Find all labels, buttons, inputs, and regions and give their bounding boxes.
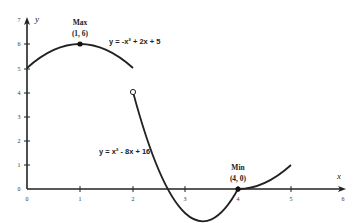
svg-text:2: 2 xyxy=(18,138,21,144)
x-axis-label: x xyxy=(336,171,341,181)
svg-text:0: 0 xyxy=(26,196,29,202)
svg-text:7: 7 xyxy=(18,17,21,23)
equation-label-1: y = -x² + 2x + 5 xyxy=(109,37,161,46)
y-tick-labels: 0 1 2 3 4 5 6 7 xyxy=(18,17,21,192)
max-point-marker xyxy=(77,41,82,46)
min-label: Min xyxy=(231,163,245,172)
svg-text:2: 2 xyxy=(132,196,135,202)
svg-text:4: 4 xyxy=(18,90,21,96)
min-point-marker xyxy=(235,186,240,191)
svg-text:6: 6 xyxy=(342,196,345,202)
svg-text:5: 5 xyxy=(18,66,21,72)
max-label: Max xyxy=(73,18,88,27)
svg-text:1: 1 xyxy=(79,196,82,202)
axes xyxy=(24,17,346,192)
svg-text:6: 6 xyxy=(18,41,21,47)
x-tick-labels: 0 1 2 3 4 5 6 xyxy=(26,196,345,202)
curve-downward-parabola xyxy=(27,44,133,68)
svg-text:3: 3 xyxy=(184,196,187,202)
svg-text:1: 1 xyxy=(18,162,21,168)
equation-label-2: y = x² - 8x + 16 xyxy=(99,147,150,156)
piecewise-chart: 0 1 2 3 4 5 6 0 1 2 3 4 5 6 7 y x Max (1… xyxy=(0,0,354,223)
svg-text:3: 3 xyxy=(18,114,21,120)
min-coords: (4, 0) xyxy=(230,174,247,183)
max-coords: (1, 6) xyxy=(72,29,89,38)
open-circle-marker xyxy=(130,89,135,94)
svg-text:4: 4 xyxy=(237,196,240,202)
y-axis-label: y xyxy=(34,14,39,24)
svg-text:0: 0 xyxy=(18,186,21,192)
svg-text:5: 5 xyxy=(290,196,293,202)
